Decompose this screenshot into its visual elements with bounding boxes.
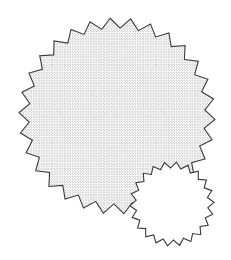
figure-canvas [0, 0, 231, 260]
starburst-diagram [0, 0, 231, 260]
